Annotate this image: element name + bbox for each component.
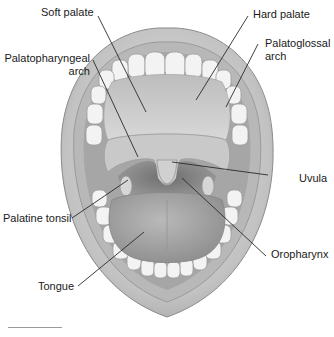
oral-cavity-diagram: Soft palate Hard palate Palatopharyngeal… xyxy=(0,0,334,337)
label-soft-palate: Soft palate xyxy=(41,6,94,19)
label-palatoglossal-arch: Palatoglossal arch xyxy=(265,37,330,63)
footer-rule xyxy=(8,327,62,328)
label-palatoglossal-line2: arch xyxy=(265,50,330,63)
label-uvula: Uvula xyxy=(299,172,327,185)
tongue xyxy=(109,193,225,263)
label-palatopharyngeal-arch: Palatopharyngeal arch xyxy=(4,52,90,78)
label-tongue: Tongue xyxy=(38,280,74,293)
label-palatine-tonsil: Palatine tonsil xyxy=(3,212,72,225)
label-palatopharyngeal-line2: arch xyxy=(4,65,90,78)
label-palatopharyngeal-line1: Palatopharyngeal xyxy=(4,52,90,65)
label-oropharynx: Oropharynx xyxy=(271,248,328,261)
hard-palate xyxy=(104,75,230,141)
label-hard-palate: Hard palate xyxy=(253,8,310,21)
label-palatoglossal-line1: Palatoglossal xyxy=(265,37,330,50)
